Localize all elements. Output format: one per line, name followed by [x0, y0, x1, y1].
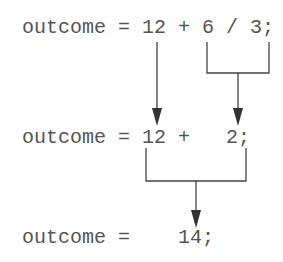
bracket-division [207, 42, 269, 73]
evaluation-arrows [0, 0, 283, 262]
arrowhead-icon [233, 108, 243, 126]
bracket-addition [146, 148, 246, 181]
arrowhead-icon [191, 210, 201, 228]
arrowhead-icon [152, 108, 162, 126]
